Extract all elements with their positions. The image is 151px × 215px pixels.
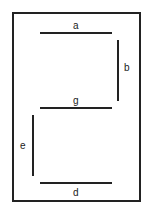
segment-a bbox=[40, 32, 112, 34]
segment-e-label: e bbox=[20, 141, 26, 151]
segment-a-label: a bbox=[73, 21, 79, 31]
segment-g bbox=[40, 107, 112, 109]
segment-d-label: d bbox=[73, 188, 79, 198]
segment-b bbox=[117, 40, 119, 101]
segment-d bbox=[40, 182, 112, 184]
segment-e bbox=[32, 115, 34, 176]
segment-b-label: b bbox=[124, 63, 130, 73]
segment-g-label: g bbox=[73, 96, 79, 106]
